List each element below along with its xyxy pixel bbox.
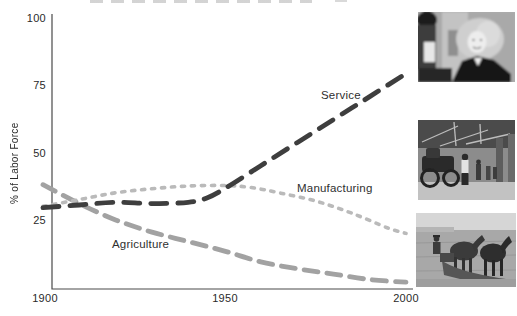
y-tick-25: 25	[14, 214, 46, 227]
axes-lines	[52, 14, 413, 289]
x-tick-1900: 1900	[26, 292, 64, 305]
y-tick-75: 75	[14, 79, 46, 92]
agriculture-photo-art	[416, 213, 516, 287]
desk-foreground	[418, 68, 452, 82]
y-tick-50: 50	[14, 147, 46, 160]
manufacturing-photo-art	[418, 120, 515, 200]
factory-column	[508, 134, 515, 186]
service-photo-art	[418, 12, 515, 82]
woman-face	[468, 31, 487, 53]
series-label-agriculture: Agriculture	[112, 238, 169, 251]
x-tick-2000: 2000	[387, 292, 425, 305]
coworker-figure	[418, 12, 437, 69]
agriculture-photo	[416, 213, 516, 287]
treeline	[416, 227, 454, 232]
y-axis-title: % of Labor Force	[9, 108, 20, 218]
series-label-service: Service	[321, 89, 361, 102]
manufacturing-photo	[418, 120, 515, 200]
series-line-agriculture	[43, 185, 406, 283]
y-tick-100: 100	[14, 12, 46, 25]
data-series-group	[43, 74, 406, 283]
factory-column	[496, 138, 503, 184]
series-label-manufacturing: Manufacturing	[297, 182, 372, 195]
plow	[440, 253, 454, 262]
x-tick-1950: 1950	[206, 292, 244, 305]
service-photo	[418, 12, 515, 82]
labor-force-sector-chart-figure: % of Labor Force 100 75 50 25 1900 1950 …	[0, 0, 517, 316]
